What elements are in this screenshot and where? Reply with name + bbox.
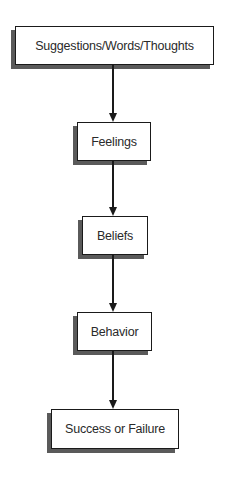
node-success-or-failure: Success or Failure xyxy=(51,409,179,449)
node-feelings: Feelings xyxy=(77,122,151,161)
node-label: Behavior xyxy=(91,325,139,339)
arrowhead-icon xyxy=(109,207,117,216)
node-suggestions-words-thoughts: Suggestions/Words/Thoughts xyxy=(15,26,214,65)
arrow-shaft xyxy=(112,161,114,209)
node-behavior: Behavior xyxy=(77,312,152,351)
node-label: Beliefs xyxy=(97,229,133,243)
arrow-shaft xyxy=(112,255,114,305)
arrowhead-icon xyxy=(109,303,117,312)
node-label: Suggestions/Words/Thoughts xyxy=(35,39,194,53)
node-label: Feelings xyxy=(91,135,137,149)
arrow-shaft xyxy=(112,351,114,402)
arrowhead-icon xyxy=(109,113,117,122)
arrow-shaft xyxy=(112,65,114,114)
arrowhead-icon xyxy=(109,400,117,409)
node-beliefs: Beliefs xyxy=(82,216,148,255)
node-label: Success or Failure xyxy=(65,422,165,436)
